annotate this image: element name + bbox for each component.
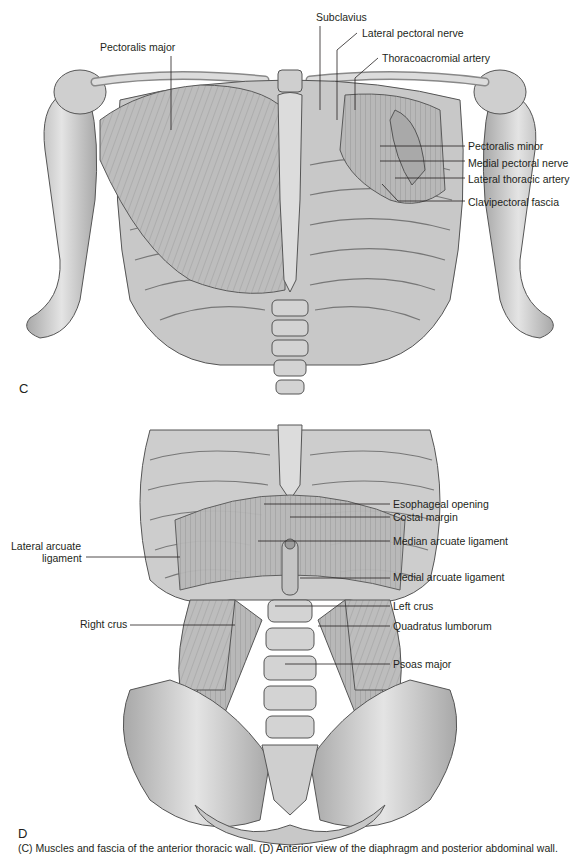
panel-d-diaphragm-art	[123, 425, 456, 845]
label-lateral-arcuate-ligament-line2: ligament	[42, 552, 82, 564]
panel-c-thorax-art	[27, 70, 554, 394]
panel-letter-d: D	[18, 826, 27, 841]
label-pectoralis-major: Pectoralis major	[100, 41, 175, 53]
label-medial-arcuate-ligament: Medial arcuate ligament	[393, 571, 504, 583]
label-psoas-major: Psoas major	[393, 658, 451, 670]
label-quadratus-lumborum: Quadratus lumborum	[393, 620, 492, 632]
label-subclavius: Subclavius	[316, 11, 367, 23]
label-esophageal-opening: Esophageal opening	[393, 498, 489, 510]
panel-letter-c: C	[19, 381, 28, 396]
label-lateral-pectoral-nerve: Lateral pectoral nerve	[362, 27, 464, 39]
label-lateral-arcuate-ligament-line1: Lateral arcuate	[11, 540, 81, 552]
label-lateral-thoracic-artery: Lateral thoracic artery	[468, 173, 570, 185]
label-left-crus: Left crus	[393, 600, 433, 612]
label-thoracoacromial-artery: Thoracoacromial artery	[382, 52, 490, 64]
figure-caption: (C) Muscles and fascia of the anterior t…	[18, 842, 558, 854]
label-clavipectoral-fascia: Clavipectoral fascia	[468, 196, 559, 208]
label-right-crus: Right crus	[80, 618, 127, 630]
label-pectoralis-minor: Pectoralis minor	[468, 140, 543, 152]
label-costal-margin: Costal margin	[393, 511, 458, 523]
label-medial-pectoral-nerve: Medial pectoral nerve	[468, 157, 568, 169]
label-median-arcuate-ligament: Median arcuate ligament	[393, 535, 508, 547]
